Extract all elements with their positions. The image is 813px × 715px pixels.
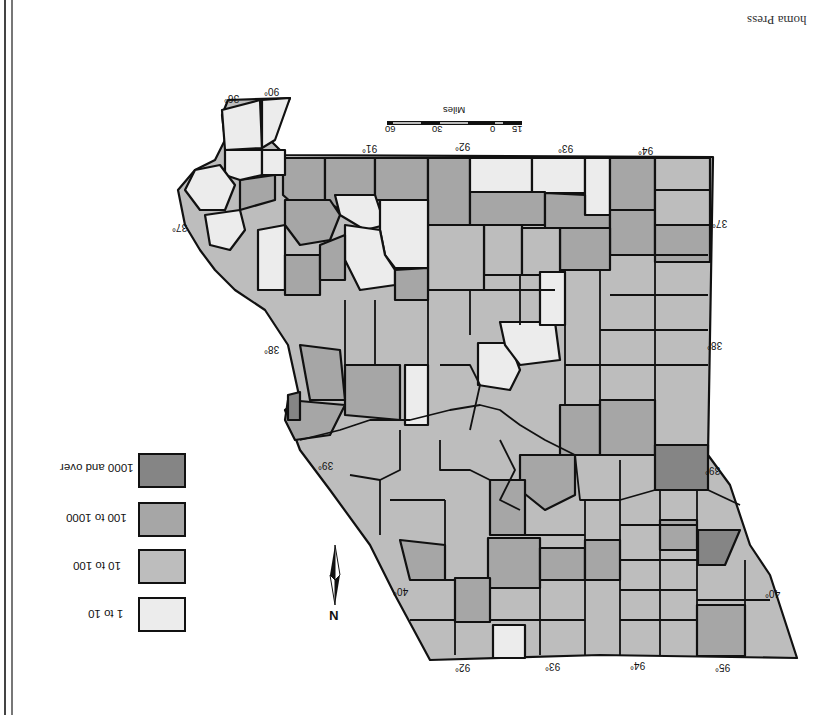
lon-tick-93: 93° [558, 143, 573, 154]
lat-tick-36: 36° [224, 93, 239, 104]
lon-tick-bottom-95: 95° [715, 662, 730, 673]
lat-tick-38-right: 38° [707, 340, 722, 351]
lat-tick-38-left: 38° [264, 344, 279, 355]
legend-label-100-1000: 100 to 1000 [66, 512, 127, 524]
legend-swatch-1-10 [138, 597, 186, 632]
lat-tick-40-left: 40° [393, 586, 408, 597]
scale-tick-0: 0 [490, 124, 495, 135]
lat-tick-39-left: 39° [318, 460, 333, 471]
lon-tick-bottom-94: 94° [630, 660, 645, 671]
scale-title: Miles [443, 105, 465, 116]
lon-tick-94: 94° [638, 145, 653, 156]
lon-tick-91: 91° [362, 143, 377, 154]
lon-tick-bottom-93: 93° [545, 661, 560, 672]
lat-tick-40-right: 40° [765, 588, 780, 599]
legend-swatch-10-100 [138, 549, 186, 584]
lat-tick-37-right: 37° [712, 218, 727, 229]
scale-bar [387, 121, 522, 125]
lat-tick-37-left: 37° [172, 222, 187, 233]
lat-tick-39-right: 39° [705, 465, 720, 476]
legend-label-1000-over: 1000 and over [60, 462, 134, 474]
scale-tick-60: 60 [385, 124, 396, 135]
legend-swatch-100-1000 [138, 502, 186, 537]
legend-swatch-1000-over [138, 453, 186, 488]
compass-label: N [329, 608, 338, 623]
north-arrow-icon [330, 545, 340, 605]
legend-label-10-100: 10 to 100 [73, 560, 121, 572]
scale-tick-15: 15 [512, 124, 523, 135]
lon-tick-bottom-92: 92° [455, 662, 470, 673]
lon-tick-90: 90° [264, 86, 279, 97]
lon-tick-92: 92° [455, 141, 470, 152]
legend-label-1-10: 1 to 10 [88, 608, 123, 620]
scale-tick-30: 30 [432, 124, 443, 135]
